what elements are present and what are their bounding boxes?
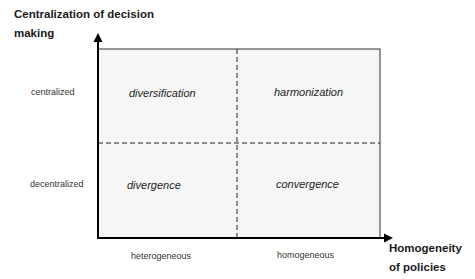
y-tick-decentralized: decentralized [30,180,84,189]
quadrant-diversification: diversification [129,88,196,99]
quadrant-convergence: convergence [276,179,339,190]
quadrant-divergence: divergence [127,180,181,191]
x-axis-title-line1: Homogeneity [389,243,462,255]
quadrant-harmonization: harmonization [274,87,343,98]
x-axis-title: Homogeneity of policies [389,243,462,273]
x-tick-homogeneous: homogeneous [277,251,334,260]
y-axis-title-line2: making [14,28,154,40]
y-tick-centralized: centralized [31,88,75,97]
y-axis-title: Centralization of decision making [14,9,154,39]
y-axis-title-line1: Centralization of decision [14,9,154,21]
x-axis-title-line2: of policies [389,262,462,274]
quadrant-chart-graphic [0,0,475,279]
x-tick-heterogeneous: heterogeneous [131,252,191,261]
